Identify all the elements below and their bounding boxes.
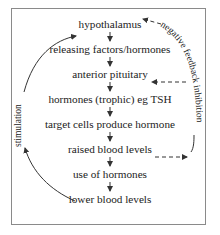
feedback-label-layer: negative feedback inhibition — [0, 0, 220, 235]
negative-feedback-label: negative feedback inhibition — [159, 19, 205, 123]
